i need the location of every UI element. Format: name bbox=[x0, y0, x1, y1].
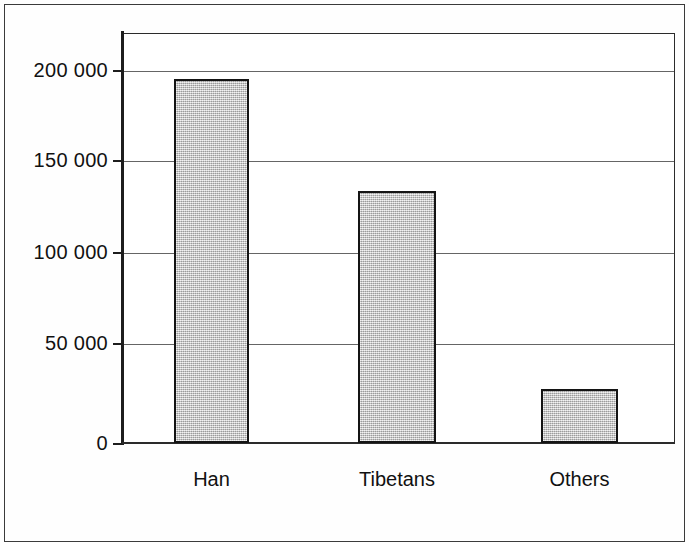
y-axis-label-200000: 200 000 bbox=[34, 59, 108, 82]
y-axis-line bbox=[121, 31, 124, 445]
bar-han bbox=[174, 79, 249, 443]
y-axis-tick-150000 bbox=[113, 160, 122, 162]
bar-others bbox=[541, 389, 618, 443]
bar-tibetans bbox=[358, 191, 436, 443]
y-axis-label-100000: 100 000 bbox=[34, 241, 108, 264]
y-axis-label-0: 0 bbox=[97, 432, 108, 455]
gridline-200000 bbox=[123, 71, 674, 72]
y-axis-tick-200000 bbox=[113, 70, 122, 72]
y-axis-tick-50000 bbox=[113, 343, 122, 345]
y-axis-tick-100000 bbox=[113, 252, 122, 254]
y-axis-label-150000: 150 000 bbox=[34, 149, 108, 172]
x-axis-label-han: Han bbox=[112, 468, 312, 491]
bar-chart-figure: 200 000 150 000 100 000 50 000 0 Han Tib… bbox=[0, 0, 689, 550]
y-axis-tick-0 bbox=[113, 443, 122, 445]
x-axis-label-others: Others bbox=[480, 468, 680, 491]
x-axis-label-tibetans: Tibetans bbox=[297, 468, 497, 491]
y-axis-label-50000: 50 000 bbox=[45, 332, 108, 355]
